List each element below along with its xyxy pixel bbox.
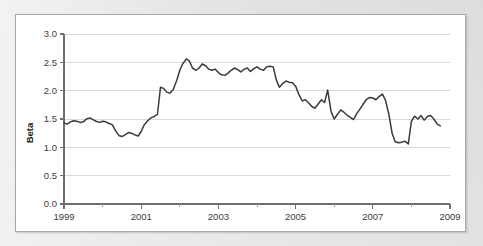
x-tick-label: 2009	[439, 211, 460, 222]
x-tick-label: 2003	[208, 211, 229, 222]
y-tick-label: 0.0	[44, 198, 57, 209]
y-axis-title: Beta	[24, 122, 35, 143]
beta-line-chart: 0.00.51.01.52.02.53.0 199920012003200520…	[16, 15, 465, 231]
y-tick-label: 2.0	[44, 85, 57, 96]
x-tick-label: 2007	[362, 211, 383, 222]
figure-panel: 0.00.51.01.52.02.53.0 199920012003200520…	[15, 14, 466, 232]
x-axis: 199920012003200520072009	[53, 204, 460, 222]
y-tick-label: 0.5	[44, 170, 57, 181]
y-axis: 0.00.51.01.52.02.53.0	[44, 28, 64, 209]
x-tick-label: 2005	[285, 211, 306, 222]
y-tick-label: 1.0	[44, 142, 57, 153]
y-tick-label: 3.0	[44, 28, 57, 39]
beta-data-line	[64, 59, 440, 144]
x-tick-label: 1999	[53, 211, 74, 222]
x-tick-label: 2001	[131, 211, 152, 222]
y-tick-label: 1.5	[44, 113, 57, 124]
gridlines	[64, 34, 450, 176]
y-tick-label: 2.5	[44, 57, 57, 68]
